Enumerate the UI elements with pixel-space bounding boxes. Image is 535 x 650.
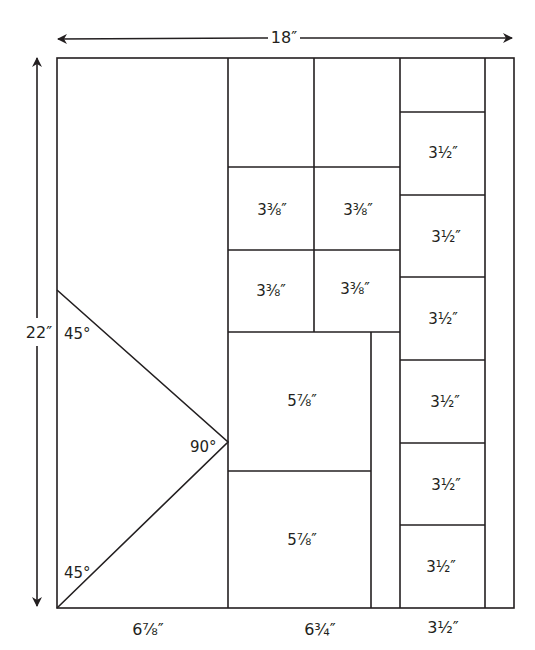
column-square-label: 3½″ (428, 144, 458, 162)
width-dimension: 18″ (58, 28, 512, 47)
large-square-label: 5⅞″ (287, 531, 317, 549)
small-square-label: 3⅜″ (257, 201, 287, 219)
bottom-right-label: 3½″ (427, 618, 459, 637)
height-dimension: 22″ (26, 58, 52, 606)
small-square-label: 3⅜″ (343, 201, 373, 219)
large-square-label: 5⅞″ (287, 392, 317, 410)
angle-top-label: 45° (64, 325, 91, 343)
column-square-label: 3½″ (428, 310, 458, 328)
column-square-label: 3½″ (431, 476, 461, 494)
width-label: 18″ (271, 28, 297, 47)
height-label: 22″ (26, 323, 52, 342)
bottom-middle-label: 6¾″ (304, 620, 336, 639)
quilt-diagram: 18″ 22″ 45° 90° 45° 3⅜″ 3⅜″ 3⅜″ 3⅜″ 5⅞″ … (0, 0, 535, 650)
arrow-left-icon (58, 38, 268, 39)
small-square-label: 3⅜″ (256, 282, 286, 300)
small-square-label: 3⅜″ (340, 280, 370, 298)
angle-bottom-label: 45° (64, 564, 91, 582)
column-square-label: 3½″ (426, 558, 456, 576)
column-square-label: 3½″ (431, 228, 461, 246)
bottom-left-label: 6⅞″ (132, 620, 164, 639)
column-square-label: 3½″ (430, 393, 460, 411)
angle-apex-label: 90° (190, 438, 217, 456)
